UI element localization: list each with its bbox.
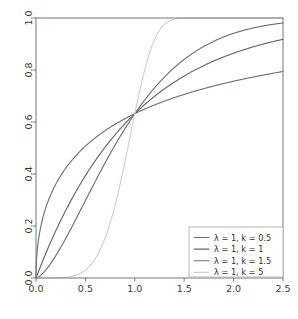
legend-label-0: λ = 1, k = 0.5 (214, 233, 271, 243)
y-tick-label: 0.8 (23, 62, 34, 77)
y-tick-label: 0.2 (23, 218, 34, 233)
weibull-cdf-chart: 0.00.51.01.52.02.5 0.00.20.40.60.81.0 λ … (0, 0, 298, 319)
x-tick-label: 2.0 (226, 283, 241, 294)
x-tick-label: 1.5 (177, 283, 192, 294)
legend-label-2: λ = 1, k = 1.5 (214, 256, 271, 266)
y-tick-label: 0.6 (23, 114, 34, 129)
y-tick-label: 1.0 (23, 10, 34, 25)
chart-canvas: 0.00.51.01.52.02.5 0.00.20.40.60.81.0 λ … (0, 0, 298, 319)
y-tick-label: 0.0 (23, 270, 34, 285)
legend-label-1: λ = 1, k = 1 (214, 244, 263, 254)
x-tick-label: 2.5 (275, 283, 290, 294)
chart-legend: λ = 1, k = 0.5λ = 1, k = 1λ = 1, k = 1.5… (189, 227, 283, 277)
legend-label-3: λ = 1, k = 5 (214, 267, 263, 277)
x-tick-label: 1.0 (127, 283, 142, 294)
y-tick-label: 0.4 (23, 166, 34, 181)
x-tick-label: 0.5 (78, 283, 93, 294)
